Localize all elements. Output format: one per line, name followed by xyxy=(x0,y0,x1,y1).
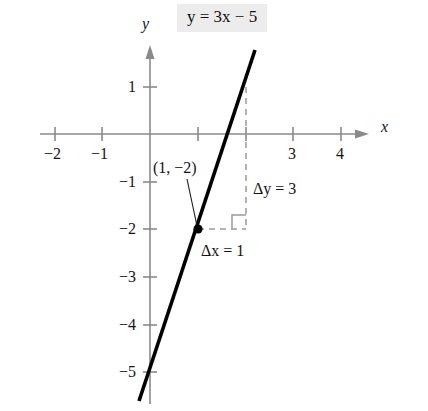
y-tick-label-neg2: −2 xyxy=(119,221,136,237)
delta-y-label: Δy = 3 xyxy=(253,181,296,197)
x-axis xyxy=(40,127,369,141)
point-leader-line xyxy=(187,179,197,226)
point-coordinate-label: (1, −2) xyxy=(153,160,197,176)
x-axis-name: x xyxy=(381,119,388,135)
delta-x-label: Δx = 1 xyxy=(201,243,244,259)
x-tick-label-neg2: −2 xyxy=(44,146,61,162)
graph-figure: y = 3x − 5 x y −2 −1 3 4 1 −1 −2 −3 −4 −… xyxy=(0,0,428,411)
x-tick-label-4: 4 xyxy=(336,146,344,162)
y-tick-label-neg5: −5 xyxy=(119,364,136,380)
coordinate-plane-svg xyxy=(0,0,428,411)
right-angle-marker-icon xyxy=(232,215,246,229)
x-tick-label-3: 3 xyxy=(288,146,296,162)
point-marker xyxy=(193,224,202,233)
y-tick-label-neg3: −3 xyxy=(119,269,136,285)
y-tick-label-neg4: −4 xyxy=(119,317,136,333)
y-axis-name: y xyxy=(142,16,149,32)
equation-label: y = 3x − 5 xyxy=(177,4,267,32)
x-tick-label-neg1: −1 xyxy=(91,146,108,162)
y-tick-label-1: 1 xyxy=(128,79,136,95)
y-tick-label-neg1: −1 xyxy=(119,174,136,190)
